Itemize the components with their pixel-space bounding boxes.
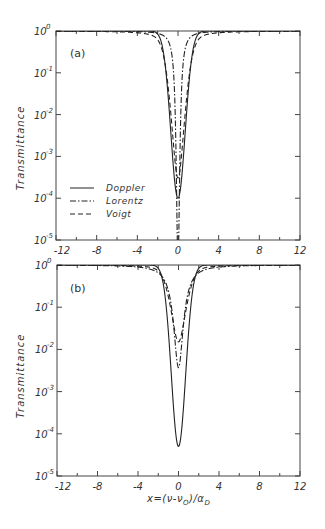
- x-tick-label: 0: [175, 481, 181, 492]
- y-tick-exponent: -4: [46, 190, 53, 198]
- y-tick-exponent: -1: [47, 299, 54, 307]
- curve-voigt: [56, 31, 300, 178]
- y-tick-exponent: 0: [46, 23, 51, 31]
- curve-voigt: [57, 265, 300, 342]
- curve-doppler: [56, 31, 300, 198]
- y-tick-exponent: -2: [47, 341, 55, 349]
- panel-a-label: (a): [70, 47, 85, 60]
- x-tick-label: -4: [133, 481, 143, 492]
- x-tick-label: -12: [55, 481, 71, 492]
- y-axis-title-b: Transmittance: [15, 334, 26, 419]
- legend-voigt-label: Voigt: [106, 209, 131, 219]
- x-tick-label: 8: [256, 245, 262, 256]
- legend-lorentz-label: Lorentz: [106, 196, 143, 206]
- y-tick-label: 10: [34, 151, 47, 162]
- x-tick-label: 0: [175, 245, 181, 256]
- x-tick-label: 4: [215, 245, 221, 256]
- y-tick-label: 10: [34, 110, 47, 121]
- x-tick-label: 12: [294, 481, 307, 492]
- y-tick-exponent: -1: [46, 65, 53, 73]
- x-tick-label: 8: [256, 481, 262, 492]
- y-tick-label: 10: [35, 260, 48, 271]
- y-tick-label: 10: [34, 193, 47, 204]
- plot-frame: [57, 265, 300, 476]
- y-tick-label: 10: [34, 68, 47, 79]
- curve-doppler: [57, 265, 300, 446]
- transmittance-chart: -12-8-40481210010-110-210-310-410-5 -12-…: [0, 0, 325, 529]
- plot-frame: [56, 31, 300, 240]
- y-tick-label: 10: [35, 302, 48, 313]
- y-tick-label: 10: [35, 471, 48, 482]
- legend: Doppler Lorentz Voigt: [70, 183, 146, 219]
- curve-lorentz: [57, 265, 300, 367]
- x-tick-label: 12: [294, 245, 307, 256]
- curve-lorentz: [56, 31, 300, 267]
- y-tick-label: 10: [35, 429, 48, 440]
- y-tick-exponent: -5: [47, 468, 55, 476]
- y-tick-exponent: -3: [46, 148, 53, 156]
- x-tick-label: -12: [54, 245, 70, 256]
- x-tick-label: -8: [92, 245, 102, 256]
- y-tick-label: 10: [35, 344, 48, 355]
- y-tick-exponent: -3: [47, 384, 54, 392]
- x-tick-label: 4: [216, 481, 222, 492]
- x-axis-title: x=(ν-νO)/αD: [146, 493, 210, 507]
- panel-b-label: (b): [70, 282, 86, 295]
- y-axis-title-a: Transmittance: [15, 106, 26, 191]
- y-tick-exponent: -5: [46, 232, 54, 240]
- y-tick-label: 10: [34, 26, 47, 37]
- legend-doppler-label: Doppler: [106, 183, 146, 193]
- y-tick-exponent: -2: [46, 107, 54, 115]
- y-tick-exponent: -4: [47, 426, 54, 434]
- y-tick-exponent: 0: [47, 257, 52, 265]
- x-tick-label: -4: [132, 245, 142, 256]
- x-tick-label: -8: [93, 481, 103, 492]
- y-tick-label: 10: [34, 235, 47, 246]
- y-tick-label: 10: [35, 387, 48, 398]
